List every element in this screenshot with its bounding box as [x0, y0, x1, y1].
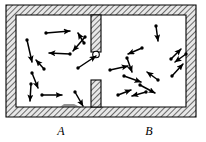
- velocity-vector-arrow: [32, 73, 38, 88]
- container-walls: [6, 5, 196, 117]
- velocity-vector-arrow: [156, 26, 158, 41]
- velocity-vector-arrow: [78, 56, 96, 68]
- velocity-vector-arrow: [127, 58, 132, 72]
- chamber-b-label: B: [139, 124, 159, 139]
- velocity-vector-arrow: [128, 48, 142, 54]
- velocity-vector-arrow: [27, 40, 32, 62]
- partition-wall-top: [91, 15, 101, 52]
- velocity-vector-arrow: [36, 60, 44, 69]
- velocity-vector-arrow: [110, 66, 128, 70]
- velocity-vector-arrow: [172, 64, 183, 76]
- velocity-vector-arrow: [75, 92, 83, 106]
- velocity-vector-arrow: [46, 31, 70, 33]
- velocity-vector-arrow: [124, 76, 141, 82]
- velocity-vector-arrow: [30, 84, 31, 101]
- chamber-a-label: A: [51, 124, 71, 139]
- partition-wall-bottom: [91, 80, 101, 107]
- floor-shadow: [60, 104, 80, 107]
- velocity-vector-arrow: [132, 92, 146, 96]
- velocity-vector-arrow: [147, 72, 158, 80]
- figure-canvas: [0, 0, 206, 142]
- velocity-vector-arrow: [175, 54, 186, 62]
- molecule-vectors-layer: [25, 24, 187, 106]
- velocity-vector-arrow: [118, 90, 131, 95]
- velocity-vector-arrow: [171, 49, 181, 59]
- velocity-vector-arrow: [49, 53, 70, 54]
- gas-chamber-figure: A B: [0, 0, 206, 142]
